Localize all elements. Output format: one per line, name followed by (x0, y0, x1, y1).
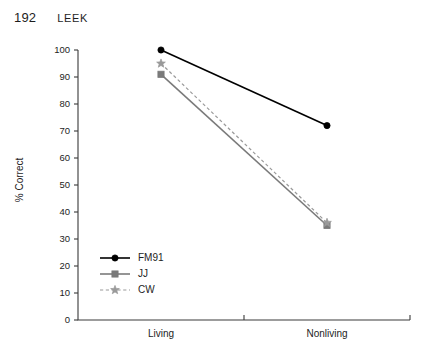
y-axis-tick-labels: 0102030405060708090100 (54, 44, 70, 325)
y-tick-label: 0 (65, 314, 70, 325)
series-JJ (158, 71, 330, 228)
chart-legend: FM91JJCW (100, 252, 164, 295)
figure-page: 192 LEEK 0102030405060708090100 LivingNo… (0, 0, 435, 351)
y-axis-ticks (74, 50, 78, 320)
y-axis-title: % Correct (14, 158, 25, 203)
series-line-FM91 (161, 50, 327, 126)
y-tick-label: 10 (59, 287, 70, 298)
y-tick-label: 70 (59, 125, 70, 136)
y-tick-label: 50 (59, 179, 70, 190)
x-axis-ticks (244, 315, 410, 320)
legend-label-JJ: JJ (138, 268, 148, 279)
axis-lines (78, 50, 410, 320)
series-FM91-circle-marker (158, 47, 164, 53)
series-CW-star-marker (157, 59, 166, 67)
y-tick-label: 90 (59, 71, 70, 82)
y-tick-label: 80 (59, 98, 70, 109)
y-tick-label: 100 (54, 44, 70, 55)
legend-label-CW: CW (138, 284, 155, 295)
y-tick-label: 30 (59, 233, 70, 244)
series-JJ-square-marker (158, 71, 164, 77)
y-tick-label: 40 (59, 206, 70, 217)
legend-CW-star-marker (111, 285, 120, 293)
legend-label-FM91: FM91 (138, 252, 164, 263)
chart-canvas: 0102030405060708090100 LivingNonliving %… (0, 0, 435, 351)
series-line-JJ (161, 74, 327, 225)
series-FM91-circle-marker (324, 123, 330, 129)
x-category-label: Nonliving (306, 328, 347, 339)
series-layer (157, 47, 332, 229)
line-chart: 0102030405060708090100 LivingNonliving %… (0, 0, 435, 351)
legend-entry-CW[interactable]: CW (100, 284, 155, 295)
x-axis-tick-labels: LivingNonliving (148, 328, 348, 339)
y-tick-label: 60 (59, 152, 70, 163)
x-category-label: Living (148, 328, 174, 339)
series-CW (157, 59, 332, 227)
legend-JJ-square-marker (112, 271, 118, 277)
y-tick-label: 20 (59, 260, 70, 271)
legend-entry-FM91[interactable]: FM91 (100, 252, 164, 263)
legend-FM91-circle-marker (112, 255, 118, 261)
series-FM91 (158, 47, 330, 129)
legend-entry-JJ[interactable]: JJ (100, 268, 148, 279)
